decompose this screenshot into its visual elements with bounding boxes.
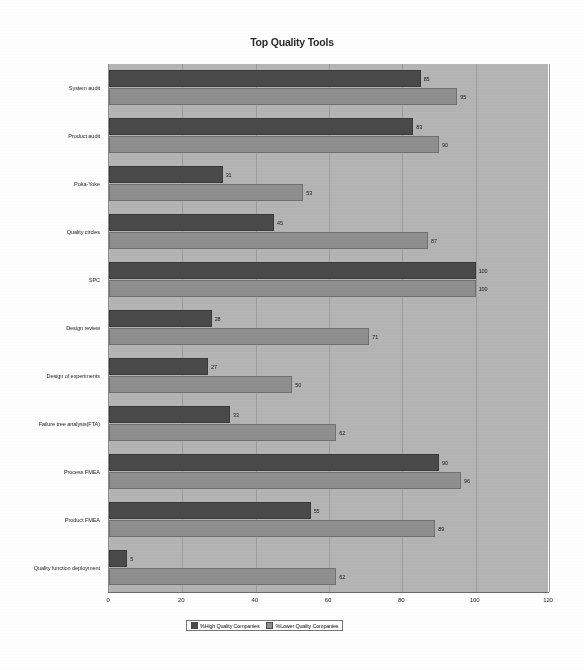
bar-value-label: 55 xyxy=(314,508,320,514)
bar-high-quality xyxy=(109,550,127,567)
x-axis-tick-label: 40 xyxy=(251,597,257,603)
y-axis-tick-label: System audit xyxy=(69,85,100,91)
bar-high-quality xyxy=(109,214,274,231)
gridline xyxy=(549,64,550,592)
bar-high-quality xyxy=(109,358,208,375)
bar-high-quality xyxy=(109,166,223,183)
legend-swatch-icon xyxy=(266,622,273,629)
gridline xyxy=(476,64,477,592)
bar-value-label: 90 xyxy=(442,460,448,466)
x-axis-tick-label: 80 xyxy=(398,597,404,603)
bar-value-label: 87 xyxy=(431,238,437,244)
bar-high-quality xyxy=(109,70,421,87)
x-axis-tick-label: 60 xyxy=(325,597,331,603)
legend-swatch-icon xyxy=(191,622,198,629)
bar-value-label: 28 xyxy=(215,316,221,322)
bar-value-label: 5 xyxy=(130,556,133,562)
bar-value-label: 50 xyxy=(295,382,301,388)
bar-value-label: 100 xyxy=(479,268,488,274)
bar-value-label: 27 xyxy=(211,364,217,370)
y-axis-tick-label: Failure tree analysis(FTA) xyxy=(39,421,100,427)
chart-legend: %High Quality Companies%Lower Quality Co… xyxy=(186,620,343,631)
bar-value-label: 89 xyxy=(438,526,444,532)
bar-value-label: 100 xyxy=(479,286,488,292)
bar-high-quality xyxy=(109,502,311,519)
legend-item: %Lower Quality Companies xyxy=(266,622,338,629)
y-axis-tick-label: Product audit xyxy=(68,133,100,139)
bar-lower-quality xyxy=(109,232,428,249)
legend-label: %High Quality Companies xyxy=(200,623,259,629)
bar-lower-quality xyxy=(109,568,336,585)
y-axis-tick-label: Design of experiments xyxy=(46,373,100,379)
x-axis-labels: 020406080100120 xyxy=(0,597,584,613)
bar-value-label: 45 xyxy=(277,220,283,226)
chart-root: Top Quality Tools 8595839031534587100100… xyxy=(0,0,584,670)
y-axis-tick-label: Quality circles xyxy=(67,229,100,235)
bar-lower-quality xyxy=(109,280,476,297)
bar-high-quality xyxy=(109,454,439,471)
bar-value-label: 83 xyxy=(416,124,422,130)
bar-value-label: 71 xyxy=(372,334,378,340)
y-axis-tick-label: SPC xyxy=(89,277,100,283)
plot-area: 8595839031534587100100287127503362909655… xyxy=(108,64,548,592)
x-axis-tick-label: 0 xyxy=(106,597,109,603)
x-axis-tick-label: 100 xyxy=(470,597,480,603)
bar-lower-quality xyxy=(109,88,457,105)
y-axis-tick-label: Process FMEA xyxy=(64,469,100,475)
bar-lower-quality xyxy=(109,184,303,201)
y-axis-tick-label: Product FMEA xyxy=(65,517,100,523)
bar-high-quality xyxy=(109,118,413,135)
bar-lower-quality xyxy=(109,424,336,441)
y-axis-labels: System auditProduct auditPoka-YokeQualit… xyxy=(0,64,104,592)
bar-value-label: 62 xyxy=(339,574,345,580)
legend-label: %Lower Quality Companies xyxy=(275,623,338,629)
bar-value-label: 85 xyxy=(424,76,430,82)
legend-item: %High Quality Companies xyxy=(191,622,259,629)
bar-lower-quality xyxy=(109,472,461,489)
x-axis-tick-label: 20 xyxy=(178,597,184,603)
bar-value-label: 33 xyxy=(233,412,239,418)
y-axis-tick-label: Quality function deployment xyxy=(34,565,100,571)
bar-value-label: 31 xyxy=(226,172,232,178)
x-axis-tick-label: 120 xyxy=(543,597,553,603)
bar-value-label: 95 xyxy=(460,94,466,100)
bar-lower-quality xyxy=(109,520,435,537)
bar-high-quality xyxy=(109,262,476,279)
x-axis-line xyxy=(108,592,549,593)
bar-lower-quality xyxy=(109,136,439,153)
bar-value-label: 96 xyxy=(464,478,470,484)
bar-lower-quality xyxy=(109,328,369,345)
bar-value-label: 53 xyxy=(306,190,312,196)
bar-lower-quality xyxy=(109,376,292,393)
bar-high-quality xyxy=(109,310,212,327)
bar-high-quality xyxy=(109,406,230,423)
chart-title: Top Quality Tools xyxy=(0,36,584,48)
bar-value-label: 62 xyxy=(339,430,345,436)
bar-value-label: 90 xyxy=(442,142,448,148)
y-axis-tick-label: Poka-Yoke xyxy=(74,181,100,187)
y-axis-tick-label: Design review xyxy=(66,325,100,331)
